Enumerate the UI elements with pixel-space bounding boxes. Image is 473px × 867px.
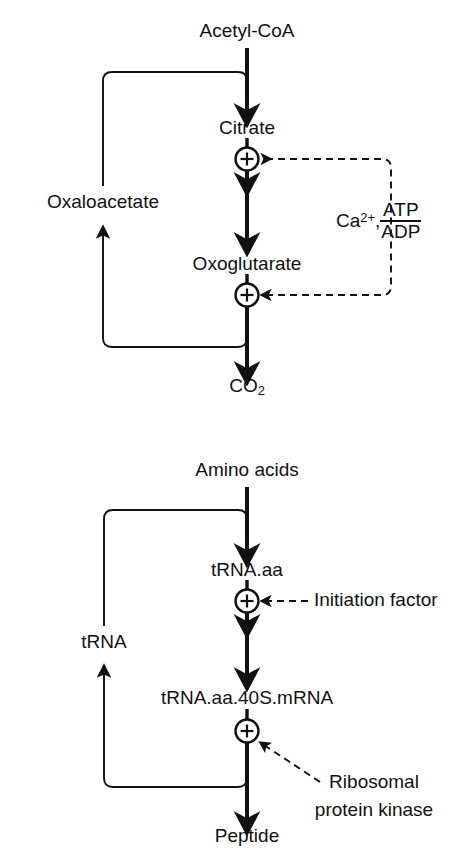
calcium-ion-label: Ca2+, [336,210,380,231]
node-label-acetyl-coa: Acetyl-CoA [199,20,294,41]
node-label-trna-aa: tRNA.aa [211,559,283,580]
plus-node-ribosomal-graphic [236,720,259,743]
plus-node-initiation-graphic [236,590,259,613]
node-label-trna-complex: tRNA.aa.40S.mRNA [161,687,333,708]
plus-node-oxoglutarate-graphic [236,284,259,307]
atp-adp-ratio: ATPADP [380,200,421,242]
plus-node-citrate-graphic [236,148,259,171]
calcium-charge: 2+ [360,210,375,225]
adp-label: ADP [380,222,421,242]
pathway-figure: Acetyl-CoA Citrate Oxaloacetate Oxogluta… [0,0,473,867]
node-label-citrate: Citrate [219,117,275,138]
node-label-oxaloacetate: Oxaloacetate [47,191,159,212]
co2-subscript: 2 [258,383,265,398]
node-label-amino-acids: Amino acids [195,459,299,480]
regulator-label-ca-atp-adp: Ca2+,ATPADP [336,200,421,242]
node-label-trna: tRNA [81,631,126,652]
calcium-symbol: Ca [336,210,360,231]
regulator-label-ribosomal-line1: Ribosomal [329,771,419,792]
atp-label: ATP [380,200,421,222]
node-label-co2: CO2 [229,375,265,398]
oxaloacetate-recycle-loop [103,232,247,347]
node-label-oxoglutarate: Oxoglutarate [193,253,302,274]
regulator-label-ribosomal-line2: protein kinase [315,799,433,820]
dashed-ribosomal-kinase-arrow [264,745,320,782]
regulator-label-initiation-factor: Initiation factor [314,589,438,610]
co2-text: CO [229,375,258,396]
node-label-peptide: Peptide [215,825,279,846]
